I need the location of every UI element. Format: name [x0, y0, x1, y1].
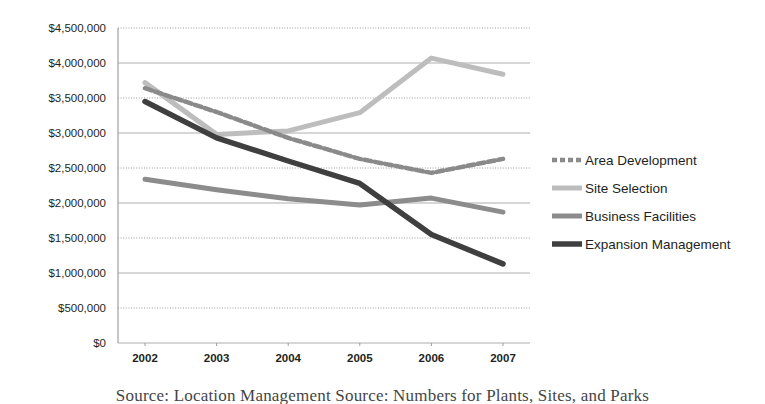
- y-axis-tick-label: $4,000,000: [48, 57, 106, 69]
- y-axis-tick-label: $4,500,000: [48, 22, 106, 34]
- y-axis-tick-label: $0: [93, 337, 106, 349]
- y-axis-tick-label: $3,500,000: [48, 92, 106, 104]
- data-series-group: [145, 58, 503, 264]
- x-axis-tick-label: 2005: [347, 352, 373, 364]
- line-chart: $4,500,000$4,000,000$3,500,000$3,000,000…: [0, 0, 765, 404]
- x-axis-tick-label: 2007: [490, 352, 516, 364]
- chart-figure: $4,500,000$4,000,000$3,500,000$3,000,000…: [0, 0, 765, 404]
- x-axis-tick-labels: 200220032004200520062007: [132, 352, 516, 364]
- y-axis-tick-label: $2,000,000: [48, 197, 106, 209]
- y-axis-tick-label: $2,500,000: [48, 162, 106, 174]
- y-axis-tick-label: $500,000: [58, 302, 106, 314]
- legend-label: Area Development: [585, 153, 697, 168]
- series-line-business-facilities: [145, 179, 503, 212]
- x-axis-tick-label: 2004: [275, 352, 301, 364]
- x-axis-tick-label: 2002: [132, 352, 158, 364]
- source-caption-text: Source: Location Management Source: Numb…: [0, 388, 765, 404]
- legend-label: Business Facilities: [585, 209, 696, 224]
- legend-label: Site Selection: [585, 181, 668, 196]
- y-axis-tick-label: $1,500,000: [48, 232, 106, 244]
- axis-lines: [118, 28, 503, 346]
- x-axis-tick-label: 2006: [419, 352, 445, 364]
- chart-legend: Area DevelopmentSite SelectionBusiness F…: [552, 153, 731, 252]
- x-axis-tick-label: 2003: [204, 352, 230, 364]
- source-caption: Source: Location Management Source: Numb…: [0, 388, 765, 404]
- y-axis-tick-labels: $4,500,000$4,000,000$3,500,000$3,000,000…: [48, 22, 106, 349]
- y-axis-tick-label: $3,000,000: [48, 127, 106, 139]
- series-line-site-selection: [145, 58, 503, 134]
- series-line-expansion-management: [145, 102, 503, 264]
- legend-label: Expansion Management: [585, 237, 731, 252]
- y-axis-tick-label: $1,000,000: [48, 267, 106, 279]
